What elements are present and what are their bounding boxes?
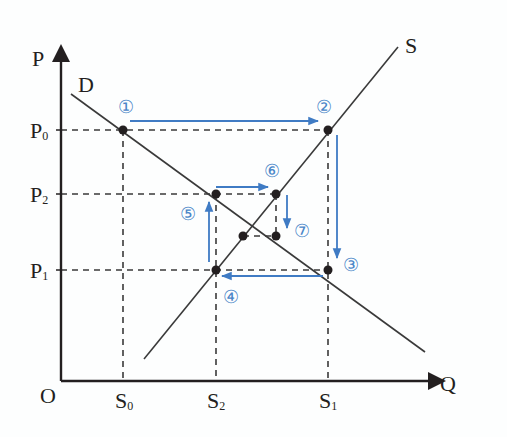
point-4 (212, 266, 221, 275)
point-5 (212, 190, 221, 199)
point-3 (324, 266, 333, 275)
guide-lines (61, 130, 328, 381)
s0-label: S0 (115, 388, 133, 413)
supply-label: S (405, 33, 417, 58)
origin-label: O (40, 383, 56, 408)
point-1 (119, 126, 128, 135)
step-label-6: ⑥ (264, 161, 280, 181)
s2-label: S2 (207, 388, 225, 413)
point-7 (272, 232, 281, 241)
price-axis-label: P (32, 46, 44, 71)
point-6 (272, 190, 281, 199)
curves (71, 47, 425, 359)
p1-label: P1 (30, 258, 48, 283)
point-8 (239, 232, 248, 241)
step-label-2: ② (316, 97, 332, 117)
step-label-1: ① (118, 97, 134, 117)
price-tick-labels: P0 P2 P1 (30, 118, 48, 283)
step-label-7: ⑦ (294, 221, 310, 241)
step-label-5: ⑤ (180, 204, 196, 224)
step-label-3: ③ (343, 255, 359, 275)
s1-label: S1 (319, 388, 337, 413)
p2-label: P2 (30, 182, 48, 207)
quantity-tick-labels: S0 S2 S1 (115, 388, 337, 413)
supply-curve (144, 47, 398, 359)
price-axis-arrow-icon (52, 44, 70, 62)
step-label-4: ④ (223, 287, 239, 307)
cobweb-diagram: P Q O D S P0 P2 P1 S0 S2 S1 ① ② ③ ④ ⑤ ⑥ … (0, 0, 507, 437)
cobweb-arrows (130, 121, 337, 276)
axes (52, 44, 446, 390)
points (119, 126, 333, 275)
demand-label: D (78, 72, 94, 97)
quantity-axis-label: Q (440, 371, 456, 396)
p0-label: P0 (30, 118, 48, 143)
point-2 (324, 126, 333, 135)
